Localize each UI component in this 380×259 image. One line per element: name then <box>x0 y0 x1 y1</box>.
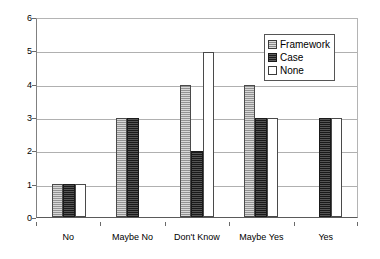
x-tick-label-maybe-yes: Maybe Yes <box>229 232 293 242</box>
legend-swatch-framework-icon <box>268 40 277 49</box>
legend-label-case: Case <box>280 52 303 63</box>
y-tick-label-3: 3 <box>2 114 32 123</box>
y-tick-label-6: 6 <box>2 14 32 23</box>
y-tick-label-1: 1 <box>2 180 32 189</box>
x-tick-label-maybe-no: Maybe No <box>100 232 164 242</box>
y-tick-label-4: 4 <box>2 80 32 89</box>
bar-maybe-yes-case <box>255 118 267 217</box>
legend-swatch-case-icon <box>268 53 277 62</box>
bar-maybe-yes-framework <box>244 85 256 217</box>
bar-don-t-know-framework <box>180 85 192 217</box>
x-tick-mark-4 <box>294 222 295 226</box>
bar-no-case <box>63 184 75 217</box>
y-tick-mark-0 <box>32 218 36 219</box>
x-tick-label-no: No <box>36 232 100 242</box>
x-tick-label-yes: Yes <box>294 232 358 242</box>
x-tick-mark-5 <box>357 222 358 226</box>
bar-yes-none <box>331 118 343 217</box>
x-tick-mark-1 <box>100 222 101 226</box>
bar-no-none <box>75 184 87 217</box>
legend-item-none[interactable]: None <box>268 64 330 77</box>
legend-item-case[interactable]: Case <box>268 51 330 64</box>
legend: Framework Case None <box>264 34 335 81</box>
x-tick-mark-2 <box>165 222 166 226</box>
bar-maybe-no-framework <box>116 118 128 217</box>
x-axis: No Maybe No Don't Know Maybe Yes Yes <box>36 222 358 244</box>
bar-no-framework <box>52 184 64 217</box>
x-tick-label-dont-know: Don't Know <box>165 232 229 242</box>
bar-yes-case <box>319 118 331 217</box>
legend-item-framework[interactable]: Framework <box>268 38 330 51</box>
bar-maybe-yes-none <box>267 118 279 217</box>
x-tick-mark-3 <box>229 222 230 226</box>
y-tick-label-5: 5 <box>2 47 32 56</box>
bar-chart: 0 1 2 3 4 5 6 No Maybe No Don't Know May… <box>0 0 380 259</box>
y-tick-label-2: 2 <box>2 147 32 156</box>
y-axis: 0 1 2 3 4 5 6 <box>0 18 32 218</box>
legend-label-framework: Framework <box>280 39 330 50</box>
bar-don-t-know-case <box>191 151 203 217</box>
bar-maybe-no-case <box>127 118 139 217</box>
x-tick-mark-0 <box>36 222 37 226</box>
bar-don-t-know-none <box>203 52 215 217</box>
legend-label-none: None <box>280 65 304 76</box>
y-tick-label-0: 0 <box>2 214 32 223</box>
legend-swatch-none-icon <box>268 66 277 75</box>
